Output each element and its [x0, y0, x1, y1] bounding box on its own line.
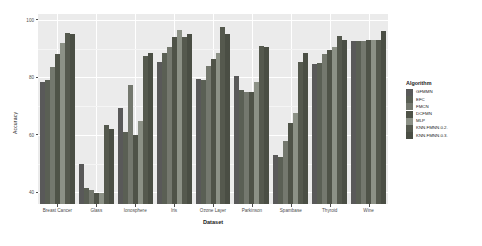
- legend-label: EFC: [416, 98, 425, 102]
- bar: [148, 53, 153, 204]
- bar: [70, 34, 75, 204]
- x-tick-label: Parkinson: [242, 208, 262, 218]
- legend-label: GFMMN: [416, 90, 433, 94]
- legend-swatch: [406, 125, 413, 132]
- x-tick: Ionosphere: [116, 204, 155, 218]
- x-tick-label: Thyroid: [322, 208, 337, 218]
- legend-label: KNN.FMNN.0.2.: [416, 126, 448, 130]
- x-tick: Parkinson: [232, 204, 271, 218]
- x-tick-label: Iris: [171, 208, 177, 218]
- bar-group: [232, 14, 271, 204]
- x-tick-label: Wine: [363, 208, 373, 218]
- bar: [303, 53, 308, 204]
- bar: [264, 47, 269, 204]
- bar-group: [194, 14, 233, 204]
- bar-groups: [38, 14, 388, 204]
- x-tick: Thyroid: [310, 204, 349, 218]
- x-tick: Wine: [349, 204, 388, 218]
- x-tick: Breast Cancer: [38, 204, 77, 218]
- bar: [225, 34, 230, 204]
- legend-item[interactable]: GFMMN: [406, 89, 480, 96]
- legend-label: MLP: [416, 119, 425, 123]
- bar-group: [155, 14, 194, 204]
- x-tick-label: Spambase: [280, 208, 302, 218]
- bar-group: [38, 14, 77, 204]
- y-tick-label: 60: [29, 132, 34, 137]
- bar: [342, 40, 347, 204]
- bar-chart: Accuracy 406080100 Breast CancerGlassIon…: [0, 0, 482, 246]
- legend-swatch: [406, 103, 413, 110]
- bar-group: [310, 14, 349, 204]
- bar: [109, 129, 114, 204]
- legend-label: DCFMN: [416, 112, 432, 116]
- plot-panel: [38, 14, 388, 204]
- bar-group: [77, 14, 116, 204]
- x-tick-label: Glass: [90, 208, 102, 218]
- legend-item[interactable]: MLP: [406, 118, 480, 125]
- y-tick-label: 80: [29, 75, 34, 80]
- legend-label: FMCN: [416, 105, 429, 109]
- legend-swatch: [406, 118, 413, 125]
- bar-group: [116, 14, 155, 204]
- legend-label: KNN.FMNN.0.3.: [416, 134, 448, 138]
- x-tick-label: Ozone Layer: [200, 208, 226, 218]
- legend-swatch: [406, 96, 413, 103]
- legend: Algorithm GFMMNEFCFMCNDCFMNMLPKNN.FMNN.0…: [406, 80, 480, 139]
- x-tick: Spambase: [271, 204, 310, 218]
- legend-items: GFMMNEFCFMCNDCFMNMLPKNN.FMNN.0.2.KNN.FMN…: [406, 89, 480, 139]
- x-tick: Glass: [77, 204, 116, 218]
- legend-item[interactable]: KNN.FMNN.0.2.: [406, 125, 480, 132]
- legend-item[interactable]: EFC: [406, 96, 480, 103]
- x-tick-label: Breast Cancer: [43, 208, 72, 218]
- x-tick: Iris: [155, 204, 194, 218]
- legend-item[interactable]: FMCN: [406, 103, 480, 110]
- legend-title: Algorithm: [406, 80, 480, 86]
- bar: [187, 34, 192, 204]
- y-tick-label: 40: [29, 190, 34, 195]
- legend-swatch: [406, 89, 413, 96]
- y-axis-ticks: 406080100: [14, 14, 38, 204]
- bar: [381, 31, 386, 204]
- legend-item[interactable]: KNN.FMNN.0.3.: [406, 132, 480, 139]
- bar-group: [271, 14, 310, 204]
- x-axis-ticks: Breast CancerGlassIonosphereIrisOzone La…: [38, 204, 388, 218]
- y-tick-label: 100: [26, 17, 34, 22]
- plot-area: Accuracy 406080100 Breast CancerGlassIon…: [0, 0, 400, 246]
- x-tick: Ozone Layer: [194, 204, 233, 218]
- bar-group: [349, 14, 388, 204]
- legend-swatch: [406, 111, 413, 118]
- x-tick-label: Ionosphere: [124, 208, 147, 218]
- x-axis-title: Dataset: [38, 219, 388, 225]
- legend-swatch: [406, 132, 413, 139]
- legend-item[interactable]: DCFMN: [406, 111, 480, 118]
